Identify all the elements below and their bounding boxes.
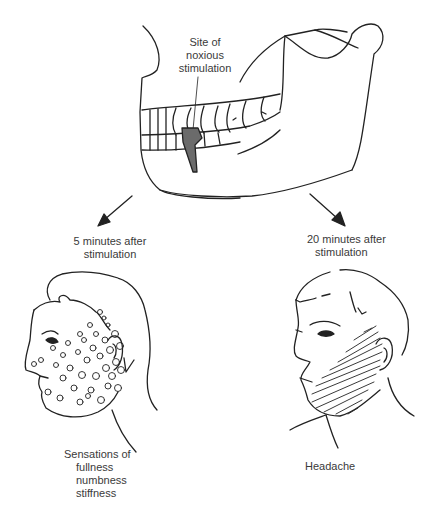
arrow-left <box>98 196 132 226</box>
result-line: numbness <box>64 474 184 487</box>
caption-line: 5 minutes after <box>50 235 170 248</box>
result-line: Headache <box>305 460 405 473</box>
site-of-stimulation-label: Site of noxious stimulation <box>170 36 240 75</box>
left-head-illustration <box>25 272 157 452</box>
label-line: Site of <box>170 36 240 49</box>
label-line: noxious <box>170 49 240 62</box>
left-result-text: Sensations of fullness numbness stiffnes… <box>64 448 184 500</box>
result-line: fullness <box>64 461 184 474</box>
right-result-text: Headache <box>305 460 405 473</box>
caption-line: 20 minutes after <box>307 233 427 246</box>
stimulated-canine <box>182 128 202 172</box>
caption-line: stimulation <box>307 246 427 259</box>
left-time-caption: 5 minutes after stimulation <box>50 235 170 261</box>
result-line: Sensations of <box>64 448 184 461</box>
right-time-caption: 20 minutes after stimulation <box>307 233 427 259</box>
arrow-right <box>310 194 345 226</box>
caption-line: stimulation <box>50 248 170 261</box>
headache-hatching <box>312 326 382 414</box>
sensation-circles <box>32 310 125 406</box>
label-line: stimulation <box>170 62 240 75</box>
result-line: stiffness <box>64 487 184 500</box>
